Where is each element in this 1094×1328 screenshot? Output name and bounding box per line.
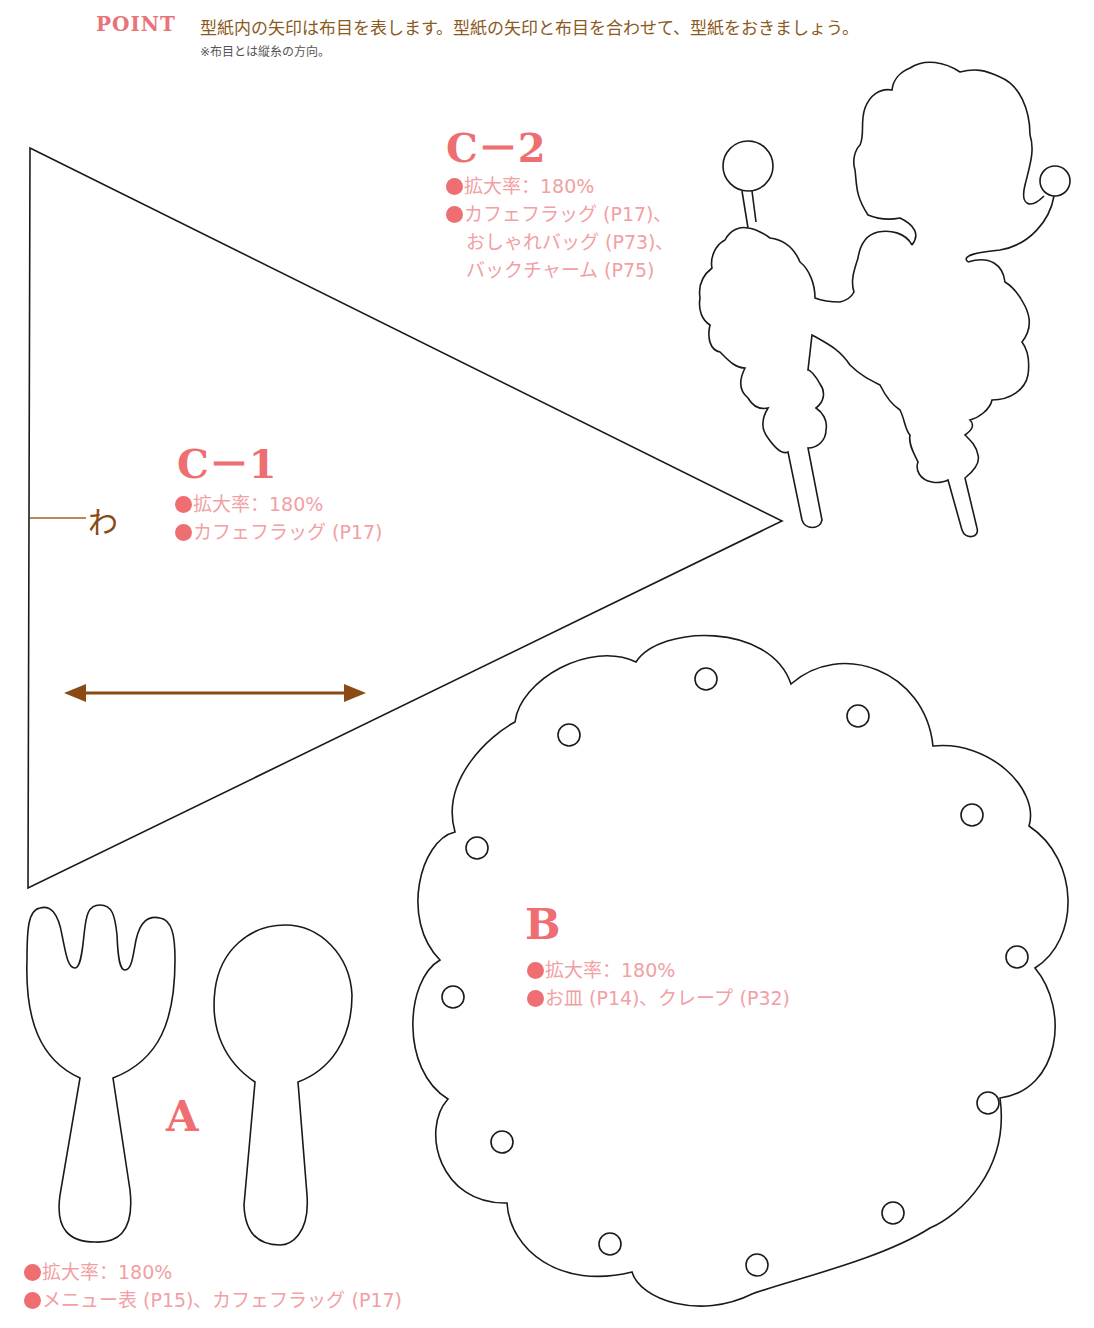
piece-info-a: 拡大率：180% メニュー表 (P15)、カフェフラッグ (P17) xyxy=(24,1258,402,1314)
info-line: おしゃれバッグ (P73)、 xyxy=(466,231,675,253)
bullet-dot-icon xyxy=(527,990,544,1007)
bullet-dot-icon xyxy=(24,1292,41,1309)
info-line: メニュー表 (P15)、カフェフラッグ (P17) xyxy=(42,1289,402,1311)
info-line: 拡大率：180% xyxy=(42,1261,172,1283)
fold-label: わ xyxy=(88,498,118,542)
info-line: 拡大率：180% xyxy=(193,493,323,515)
info-line: バックチャーム (P75) xyxy=(466,259,655,281)
fork-outline xyxy=(27,905,175,1242)
piece-info-c2: 拡大率：180% カフェフラッグ (P17)、 おしゃれバッグ (P73)、 バ… xyxy=(446,172,675,284)
poodle-outline xyxy=(699,62,1070,536)
point-note: ※布目とは縦糸の方向。 xyxy=(200,42,330,59)
point-instruction: 型紙内の矢印は布目を表します。型紙の矢印と布目を合わせて、型紙をおきましょう。 xyxy=(200,14,859,39)
info-line: お皿 (P14)、クレープ (P32) xyxy=(545,987,790,1009)
grain-arrow-icon xyxy=(64,684,366,702)
bullet-dot-icon xyxy=(446,206,463,223)
bullet-dot-icon xyxy=(527,962,544,979)
point-label: POINT xyxy=(96,12,176,36)
piece-title-c1: C－1 xyxy=(177,432,277,490)
piece-title-a: A xyxy=(166,1092,199,1141)
info-line: 拡大率：180% xyxy=(464,175,594,197)
bullet-dot-icon xyxy=(446,178,463,195)
spoon-outline xyxy=(214,925,352,1245)
info-line: 拡大率：180% xyxy=(545,959,675,981)
info-line: カフェフラッグ (P17)、 xyxy=(464,203,673,225)
bullet-dot-icon xyxy=(175,524,192,541)
piece-info-b: 拡大率：180% お皿 (P14)、クレープ (P32) xyxy=(527,956,790,1012)
piece-title-b: B xyxy=(525,900,561,949)
bullet-dot-icon xyxy=(175,496,192,513)
info-line: カフェフラッグ (P17) xyxy=(193,521,383,543)
piece-title-c2: C－2 xyxy=(446,116,546,174)
bullet-dot-icon xyxy=(24,1264,41,1281)
piece-info-c1: 拡大率：180% カフェフラッグ (P17) xyxy=(175,490,383,546)
